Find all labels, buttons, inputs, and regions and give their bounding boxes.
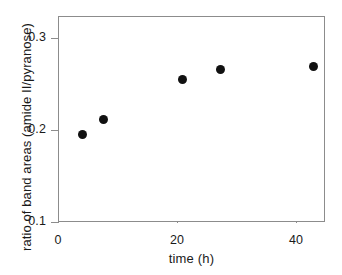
data-point [178, 75, 187, 84]
x-axis-tick-label: 40 [276, 234, 316, 247]
x-axis-label: time (h) [58, 252, 325, 266]
x-axis-tick-label: 0 [38, 234, 78, 247]
x-axis-tick-label: 20 [157, 234, 197, 247]
data-point [99, 115, 108, 124]
y-axis-label: ratio of band areas (amide II/pyranose) [18, 18, 36, 256]
data-point [216, 65, 225, 74]
plot-area [58, 16, 325, 222]
scatter-chart-figure: 0.10.20.3 02040 time (h) ratio of band a… [0, 0, 342, 275]
data-point [309, 62, 318, 71]
data-points-layer [59, 17, 324, 221]
data-point [78, 130, 87, 139]
